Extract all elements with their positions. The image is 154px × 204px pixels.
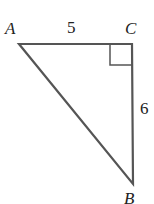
vertex-label-c: C [125, 19, 137, 38]
side-label-cb: 6 [140, 99, 149, 118]
side-label-ac: 5 [67, 18, 76, 37]
vertex-label-b: B [124, 189, 135, 204]
triangle-diagram: A 5 C 6 B [0, 0, 154, 204]
vertex-label-a: A [4, 19, 16, 38]
right-angle-marker [110, 44, 132, 65]
